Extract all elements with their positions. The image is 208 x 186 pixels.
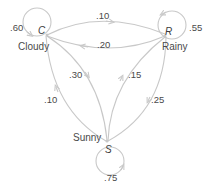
state-name-rainy: Rainy xyxy=(162,42,188,52)
diagram-edges xyxy=(0,0,208,186)
prob-sunny-self: .75 xyxy=(104,173,117,183)
prob-s-to-r: .15 xyxy=(128,70,141,80)
state-name-cloudy: Cloudy xyxy=(18,42,49,52)
prob-rainy-self: .55 xyxy=(189,23,202,33)
prob-s-to-c: .10 xyxy=(44,95,57,105)
node-point-cloudy xyxy=(46,34,49,37)
edge-r-to-s xyxy=(108,37,166,141)
prob-r-to-s: .25 xyxy=(151,95,164,105)
state-letter-s: S xyxy=(105,145,112,155)
prob-c-to-r: .10 xyxy=(96,11,109,21)
state-letter-c: C xyxy=(38,26,45,36)
node-point-sunny xyxy=(106,140,109,143)
state-letter-r: R xyxy=(165,27,172,37)
state-name-sunny: Sunny xyxy=(73,133,101,143)
prob-cloudy-self: .60 xyxy=(10,23,23,33)
markov-chain-diagram: C R S Cloudy Rainy Sunny .60 .55 .75 .10… xyxy=(0,0,208,186)
prob-c-to-s: .30 xyxy=(69,70,82,80)
edge-s-to-c xyxy=(46,36,106,141)
prob-r-to-c: .20 xyxy=(97,40,110,50)
edge-c-to-r xyxy=(47,21,165,35)
